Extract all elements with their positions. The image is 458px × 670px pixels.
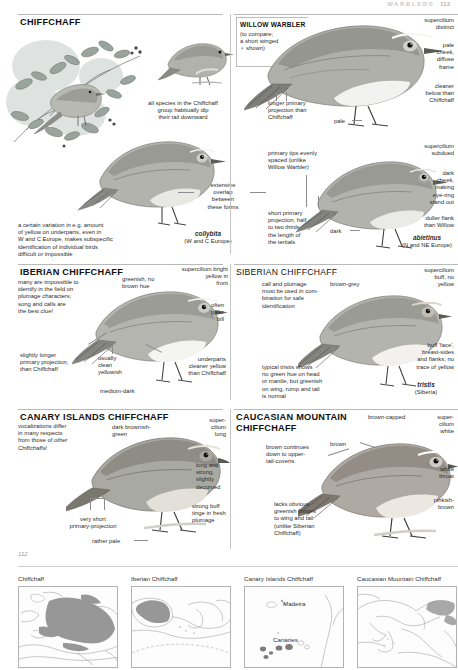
note-iberian-medium-dark: medium-dark <box>100 388 150 395</box>
leader-canary-primary-bar <box>90 498 105 499</box>
map-title-caucasian: Caucasian Mountain Chiffchaff <box>357 575 441 582</box>
illustration-chiffchaff-perched <box>158 30 234 88</box>
note-dark-cheek: dark cheek, making eye-ring stand out <box>406 170 454 206</box>
map-canary: Madeira Canaries <box>244 586 344 668</box>
note-ww-cleaner-below: cleaner below than Chiffchaff <box>390 83 454 105</box>
note-iberian-intro: many are impossible to identify in the f… <box>18 279 96 315</box>
leader-overlap-left <box>178 192 194 193</box>
rule-siberian-top <box>234 264 458 265</box>
note-canary-short-primary: very short primary-projection <box>54 516 132 530</box>
note-caucasian-supercilium: super- cilium white <box>418 414 454 436</box>
note-supercilium-subdued: supercilium subdued <box>394 143 454 157</box>
leader-iberian-yellowish <box>112 344 113 354</box>
divider-col2 <box>230 264 231 400</box>
note-ww-pale-cheek: pale cheek, diffuse frame <box>402 42 454 71</box>
note-ww-longer-primary: longer primary projection than Chiffchaf… <box>268 100 330 122</box>
field-guide-page: WARBLERS113 CHIFFCHAFF <box>0 0 458 670</box>
leader-ww-primary-b <box>286 92 287 101</box>
leader-overlap-right <box>250 192 266 193</box>
note-siberian-tristis: typical tristis shows no green hue on he… <box>262 364 348 400</box>
note-iberian-underparts: underparts cleaner yellow than Chiffchaf… <box>160 356 226 378</box>
note-caucasian-brown-continues: brown continues down to upper- tail-cove… <box>266 444 326 466</box>
map-iberian <box>131 586 231 668</box>
note-iberian-longer-primary: slightly longer primary projection, than… <box>20 352 92 374</box>
race-tristis-name: tristis (Siberia) <box>398 381 454 396</box>
note-duller-flank: duller flank than Willow <box>396 215 454 229</box>
leader-ww-pale <box>352 120 362 121</box>
note-canary-dark-green: dark brownish- green <box>112 424 168 438</box>
rule-chiffchaff-top <box>18 14 223 15</box>
note-canary-buff-tinge: strong buff tinge in fresh plumage <box>192 503 232 525</box>
map-chiffchaff <box>18 586 118 668</box>
illustration-collybita <box>78 128 226 228</box>
map-label-madeira: Madeira <box>283 600 306 607</box>
leader-primary-tips <box>306 175 307 207</box>
map-title-iberian: Iberian Chiffchaff <box>131 575 178 582</box>
divider-col1 <box>230 14 231 254</box>
note-canary-supercilium: super- cilium long <box>192 417 226 439</box>
leader-short-primary <box>318 196 319 208</box>
leader-canary-primary-a <box>90 498 91 510</box>
running-head-page: 113 <box>440 1 450 7</box>
section-title-siberian: SIBERIAN CHIFFCHAFF <box>236 267 337 278</box>
note-tail-dip: all species in the Chiffchaff group habi… <box>140 100 226 122</box>
note-siberian-brown-grey: brown-grey <box>330 281 382 288</box>
leader-canary-pale <box>134 540 148 541</box>
note-caucasian-white-throat: white throat <box>418 466 454 480</box>
note-canary-rather-pale: rather pale <box>92 538 134 545</box>
note-primary-tips: primary tips evenly spaced (unlike Willo… <box>268 150 338 172</box>
map-label-canaries: Canaries <box>273 636 298 643</box>
note-iberian-supercilium: supercilium bright yellow in front <box>172 266 228 288</box>
note-siberian-intro: call and plumage must be used in com- bi… <box>262 281 328 310</box>
section-title-iberian: IBERIAN CHIFFCHAFF <box>20 267 123 278</box>
note-canary-bill: long and strong, slightly decurved <box>196 462 230 491</box>
note-caucasian-pinkish-brown: pinkish- brown <box>410 497 454 511</box>
rule-maps-top <box>18 566 458 567</box>
race-collybita-name: collybita (W and C Europe) <box>178 230 238 245</box>
leader-ww-primary-a <box>276 92 277 101</box>
map-title-canary: Canary Islands Chiffchaff <box>244 575 313 582</box>
running-head-title: WARBLERS <box>387 1 434 7</box>
note-variation: a certain variation in e.g. amount of ye… <box>18 222 168 258</box>
rule-canary-top <box>18 409 223 410</box>
page-number: 112 <box>18 551 28 557</box>
note-siberian-buff-face: buff 'face', breast-sides and flanks; no… <box>388 342 454 371</box>
leader-canary-primary-b <box>104 498 105 510</box>
race-abietinus-name: abietinus (N and NE Europe) <box>398 234 456 249</box>
map-title-chiffchaff: Chiffchaff <box>18 575 44 582</box>
note-iberian-greenish: greenish, no brown hue <box>122 276 178 290</box>
note-siberian-supercilium: supercilium buff, no yellow <box>394 267 454 289</box>
note-ww-supercilium: supercilium distinct <box>392 17 454 31</box>
note-caucasian-lacks-fringes: lacks obvious greenish fringes to wing a… <box>274 501 340 537</box>
note-iberian-clean-yellowish: usually clean yellowish <box>98 355 138 377</box>
rule-iberian-top <box>18 264 223 265</box>
note-iberian-paler-bill: often paler bill <box>190 302 224 324</box>
note-extensive-overlap: extensive overlap between these forms <box>196 182 250 211</box>
divider-col3 <box>230 409 231 549</box>
rule-caucasian-top <box>234 409 458 410</box>
running-head: WARBLERS113 <box>387 1 450 7</box>
section-title-canary: CANARY ISLANDS CHIFFCHAFF <box>20 412 169 423</box>
note-canary-intro: vocalizations differ in many respects fr… <box>18 423 90 452</box>
leader-dark <box>350 230 360 231</box>
map-caucasian <box>357 586 457 668</box>
note-short-primary: short primary projection, half to two th… <box>268 210 330 246</box>
